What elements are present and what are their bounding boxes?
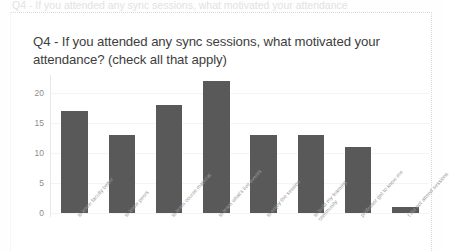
chart-panel: Q4 - If you attended any sync sessions, …	[10, 12, 432, 251]
y-axis-tick-label: 10	[22, 148, 44, 158]
bar	[203, 81, 229, 213]
x-axis-labels: to know faculty betterto know peersto le…	[51, 214, 451, 251]
y-axis-tick-label: 5	[22, 178, 44, 188]
y-axis-tick-label: 0	[22, 208, 44, 218]
grid-line	[51, 93, 429, 94]
chart-title: Q4 - If you attended any sync sessions, …	[33, 33, 423, 69]
grid-line	[51, 123, 429, 124]
cut-off-header-text: Q4 - If you attended any sync sessions, …	[12, 0, 432, 11]
y-axis-tick-label: 20	[22, 88, 44, 98]
bar	[61, 111, 87, 213]
y-axis-tick-label: 15	[22, 118, 44, 128]
bar	[156, 105, 182, 213]
